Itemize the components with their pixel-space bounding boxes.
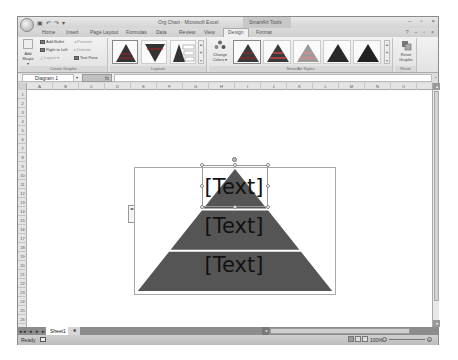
row-header-26[interactable]: 26 <box>18 315 27 324</box>
right-to-left-button[interactable]: Right to Left <box>40 47 68 52</box>
help-icon[interactable]: ? <box>406 29 409 35</box>
customize-qat-icon[interactable]: ▾ <box>62 19 65 26</box>
restore-icon[interactable]: ▫ <box>423 29 425 35</box>
tab-view[interactable]: View <box>204 29 215 35</box>
column-header-a[interactable]: A <box>27 83 53 90</box>
zoom-in-icon[interactable]: + <box>427 337 432 342</box>
formula-input[interactable] <box>114 74 432 82</box>
tab-insert[interactable]: Insert <box>66 29 79 35</box>
name-box[interactable]: Diagram 1 <box>22 74 74 82</box>
row-header-5[interactable]: 5 <box>18 126 27 135</box>
row-header-24[interactable]: 24 <box>18 297 27 306</box>
row-header-2[interactable]: 2 <box>18 99 27 108</box>
layout-inverted-pyramid[interactable] <box>141 40 167 64</box>
demote-button[interactable]: ▸ Demote <box>74 47 91 52</box>
styles-gallery-scroll[interactable]: ▲ ▼ ▾ <box>384 40 390 64</box>
row-header-22[interactable]: 22 <box>18 279 27 288</box>
row-header-18[interactable]: 18 <box>18 243 27 252</box>
row-header-23[interactable]: 23 <box>18 288 27 297</box>
row-header-13[interactable]: 13 <box>18 198 27 207</box>
more-icon[interactable]: ▾ <box>199 57 203 65</box>
column-header-n[interactable]: N <box>365 83 391 90</box>
row-header-3[interactable]: 3 <box>18 108 27 117</box>
column-header-b[interactable]: B <box>53 83 79 90</box>
normal-view-icon[interactable] <box>348 336 354 342</box>
text-pane-button[interactable]: Text Pane <box>74 55 98 60</box>
column-header-l[interactable]: L <box>313 83 339 90</box>
scroll-down-icon[interactable]: ▼ <box>199 49 203 57</box>
pyramid-level-3-text[interactable]: [Text] <box>184 253 284 277</box>
column-header-g[interactable]: G <box>183 83 209 90</box>
row-header-10[interactable]: 10 <box>18 171 27 180</box>
redo-icon[interactable]: ↷ <box>54 19 59 26</box>
resize-handle[interactable] <box>200 184 204 188</box>
zoom-slider[interactable] <box>389 339 425 340</box>
rotate-handle[interactable] <box>232 157 237 162</box>
scroll-up-button[interactable]: ▴ <box>433 83 440 90</box>
column-header-o[interactable]: O <box>391 83 417 90</box>
add-bullet-button[interactable]: Add Bullet <box>40 39 64 44</box>
promote-button[interactable]: ◂ Promote <box>74 39 92 44</box>
resize-handle[interactable] <box>200 205 204 209</box>
column-header-m[interactable]: M <box>339 83 365 90</box>
page-layout-view-icon[interactable] <box>355 336 361 342</box>
minimize-icon[interactable]: – <box>408 18 411 24</box>
row-header-11[interactable]: 11 <box>18 180 27 189</box>
tab-review[interactable]: Review <box>179 29 195 35</box>
page-break-view-icon[interactable] <box>362 336 368 342</box>
insert-sheet-icon[interactable]: ✱ <box>68 327 80 335</box>
scroll-left-button[interactable]: ◂ <box>262 327 269 335</box>
resize-handle[interactable] <box>266 205 270 209</box>
column-header-k[interactable]: K <box>287 83 313 90</box>
tab-data[interactable]: Data <box>156 29 167 35</box>
maximize-icon[interactable]: ▫ <box>420 18 422 24</box>
tab-formulas[interactable]: Formulas <box>126 29 147 35</box>
vertical-scrollbar[interactable]: ▴ ▾ <box>432 83 439 327</box>
row-header-1[interactable]: 1 <box>18 90 27 99</box>
more-icon[interactable]: ▾ <box>385 57 389 65</box>
row-header-25[interactable]: 25 <box>18 306 27 315</box>
layouts-gallery-scroll[interactable]: ▲ ▼ ▾ <box>198 40 204 64</box>
column-header-c[interactable]: C <box>79 83 105 90</box>
row-header-7[interactable]: 7 <box>18 144 27 153</box>
pyramid-level-2-text[interactable]: [Text] <box>184 214 284 238</box>
column-header-h[interactable]: H <box>209 83 235 90</box>
column-header-j[interactable]: J <box>261 83 287 90</box>
column-header-d[interactable]: D <box>105 83 131 90</box>
reset-graphic-button[interactable]: Reset Graphic <box>396 39 416 62</box>
expand-formula-bar-icon[interactable]: ⌄ <box>432 74 438 82</box>
scroll-up-icon[interactable]: ▲ <box>385 41 389 49</box>
zoom-level[interactable]: 100% <box>370 337 383 343</box>
select-all-button[interactable] <box>18 83 27 90</box>
row-header-12[interactable]: 12 <box>18 189 27 198</box>
tab-design[interactable]: Design <box>223 28 249 37</box>
resize-handle[interactable] <box>233 205 237 209</box>
style-moderate-effect[interactable] <box>323 40 351 64</box>
row-header-19[interactable]: 19 <box>18 252 27 261</box>
resize-handle[interactable] <box>266 184 270 188</box>
layout-button[interactable]: △ Layout ▾ <box>40 55 59 60</box>
style-subtle-effect[interactable] <box>263 40 291 64</box>
column-header-e[interactable]: E <box>131 83 157 90</box>
change-colors-button[interactable]: Change Colors ▾ <box>210 40 230 62</box>
close-icon[interactable]: × <box>431 18 435 24</box>
tab-page-layout[interactable]: Page Layout <box>90 29 118 35</box>
scroll-up-icon[interactable]: ▲ <box>199 41 203 49</box>
zoom-out-icon[interactable]: – <box>382 337 387 342</box>
save-icon[interactable]: ▣ <box>37 19 43 26</box>
scroll-down-icon[interactable]: ▼ <box>385 49 389 57</box>
resize-handle[interactable] <box>200 163 204 167</box>
row-header-21[interactable]: 21 <box>18 270 27 279</box>
row-header-4[interactable]: 4 <box>18 117 27 126</box>
resize-handle[interactable] <box>266 163 270 167</box>
name-box-dropdown-icon[interactable]: ▾ <box>76 75 78 80</box>
scroll-down-button[interactable]: ▾ <box>433 320 440 327</box>
row-header-14[interactable]: 14 <box>18 207 27 216</box>
style-white-outline[interactable] <box>293 40 321 64</box>
tab-home[interactable]: Home <box>42 29 55 35</box>
office-button[interactable] <box>20 18 34 32</box>
minimize-ribbon-icon[interactable]: – <box>415 29 418 35</box>
row-header-6[interactable]: 6 <box>18 135 27 144</box>
horizontal-scrollbar[interactable] <box>270 328 410 334</box>
insert-function-button[interactable]: fx <box>82 74 112 82</box>
